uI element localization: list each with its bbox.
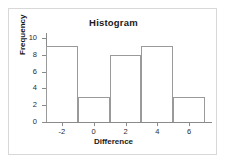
y-tick-label: 0 — [33, 117, 37, 126]
histogram-bar — [46, 46, 78, 122]
histogram-bar — [78, 97, 110, 122]
y-axis-label: Frequency — [18, 15, 27, 55]
histogram-bar — [110, 55, 142, 122]
plot-area: 0246810 -20246 — [46, 38, 205, 122]
x-tick-label: 6 — [187, 127, 191, 136]
y-tick-label: 2 — [33, 100, 37, 109]
chart-figure-frame: Histogram Frequency 0246810 -20246 Diffe… — [8, 8, 217, 155]
x-axis-line — [46, 122, 212, 123]
chart-title: Histogram — [9, 17, 218, 28]
y-tick-mark: 0 — [42, 122, 46, 123]
histogram-bar — [173, 97, 205, 122]
x-tick-label: -2 — [59, 127, 66, 136]
x-tick-label: 4 — [155, 127, 159, 136]
x-tick-label: 0 — [92, 127, 96, 136]
x-tick-mark — [157, 122, 158, 126]
x-tick-label: 2 — [123, 127, 127, 136]
x-tick-mark — [189, 122, 190, 126]
y-tick-label: 8 — [33, 50, 37, 59]
x-tick-mark — [62, 122, 63, 126]
x-axis-label: Difference — [9, 137, 218, 146]
histogram-bar — [141, 46, 173, 122]
y-tick-mark: 10 — [42, 38, 46, 39]
x-tick-mark — [94, 122, 95, 126]
x-tick-mark — [126, 122, 127, 126]
y-tick-label: 4 — [33, 83, 37, 92]
y-tick-label: 6 — [33, 67, 37, 76]
y-tick-label: 10 — [29, 33, 37, 42]
